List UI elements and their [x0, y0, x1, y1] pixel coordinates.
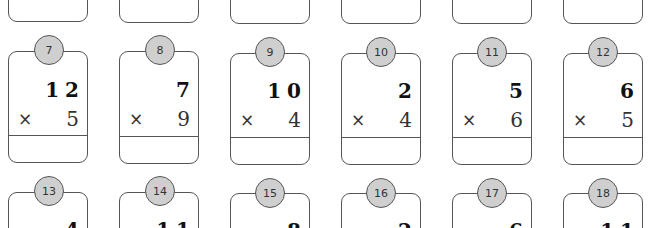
- multiplier: 5: [621, 108, 634, 132]
- problem-number-badge: 16: [366, 178, 396, 208]
- problem-number-badge: 8: [145, 35, 175, 65]
- problem-card-8: 7 × 9: [119, 51, 199, 164]
- multiplier: 6: [510, 108, 523, 132]
- problem-card-12: 6 × 5: [563, 53, 643, 165]
- multiplicand: 11: [156, 218, 196, 228]
- multiplicand: 2: [398, 219, 418, 228]
- multiplicand: 8: [287, 219, 307, 228]
- multiplicand: 7: [176, 78, 196, 102]
- problem-number-badge: 10: [366, 37, 396, 67]
- answer-divider: [231, 137, 309, 138]
- problem-number-badge: 18: [588, 178, 618, 208]
- answer-divider: [564, 137, 642, 138]
- times-sign: ×: [18, 109, 32, 129]
- problem-card-11: 5 × 6: [452, 53, 532, 165]
- times-sign: ×: [462, 110, 476, 130]
- problem-card-4: [341, 0, 421, 24]
- times-sign: ×: [573, 110, 587, 130]
- multiplier: 4: [288, 108, 301, 132]
- answer-divider: [453, 137, 531, 138]
- problem-number-badge: 15: [255, 178, 285, 208]
- multiplier: 9: [177, 107, 190, 131]
- problem-card-1: [8, 0, 88, 22]
- problem-number-badge: 14: [145, 176, 175, 206]
- problem-number-badge: 9: [255, 37, 285, 67]
- problem-card-5: [452, 0, 532, 24]
- answer-divider: [120, 136, 198, 137]
- times-sign: ×: [351, 110, 365, 130]
- multiplicand: 6: [509, 219, 529, 228]
- problem-card-9: 10 × 4: [230, 53, 310, 165]
- answer-divider: [9, 135, 87, 136]
- problem-card-6: [563, 0, 643, 24]
- multiplicand: 5: [509, 79, 529, 103]
- multiplicand: 4: [65, 218, 85, 228]
- problem-number-badge: 13: [34, 176, 64, 206]
- times-sign: ×: [129, 109, 143, 129]
- multiplier: 5: [66, 107, 79, 131]
- times-sign: ×: [240, 110, 254, 130]
- problem-number-badge: 7: [34, 35, 64, 65]
- problem-card-7: 12 × 5: [8, 51, 88, 163]
- multiplier: 4: [399, 108, 412, 132]
- problem-number-badge: 17: [477, 178, 507, 208]
- multiplicand: 2: [398, 79, 418, 103]
- multiplicand: 12: [45, 78, 85, 102]
- problem-card-3: [230, 0, 310, 24]
- multiplicand: 6: [620, 79, 640, 103]
- multiplicand: 11: [600, 219, 640, 228]
- problem-card-2: [119, 0, 199, 23]
- problem-number-badge: 11: [477, 37, 507, 67]
- multiplicand: 10: [267, 79, 307, 103]
- answer-divider: [342, 137, 420, 138]
- problem-number-badge: 12: [588, 37, 618, 67]
- problem-card-10: 2 × 4: [341, 53, 421, 165]
